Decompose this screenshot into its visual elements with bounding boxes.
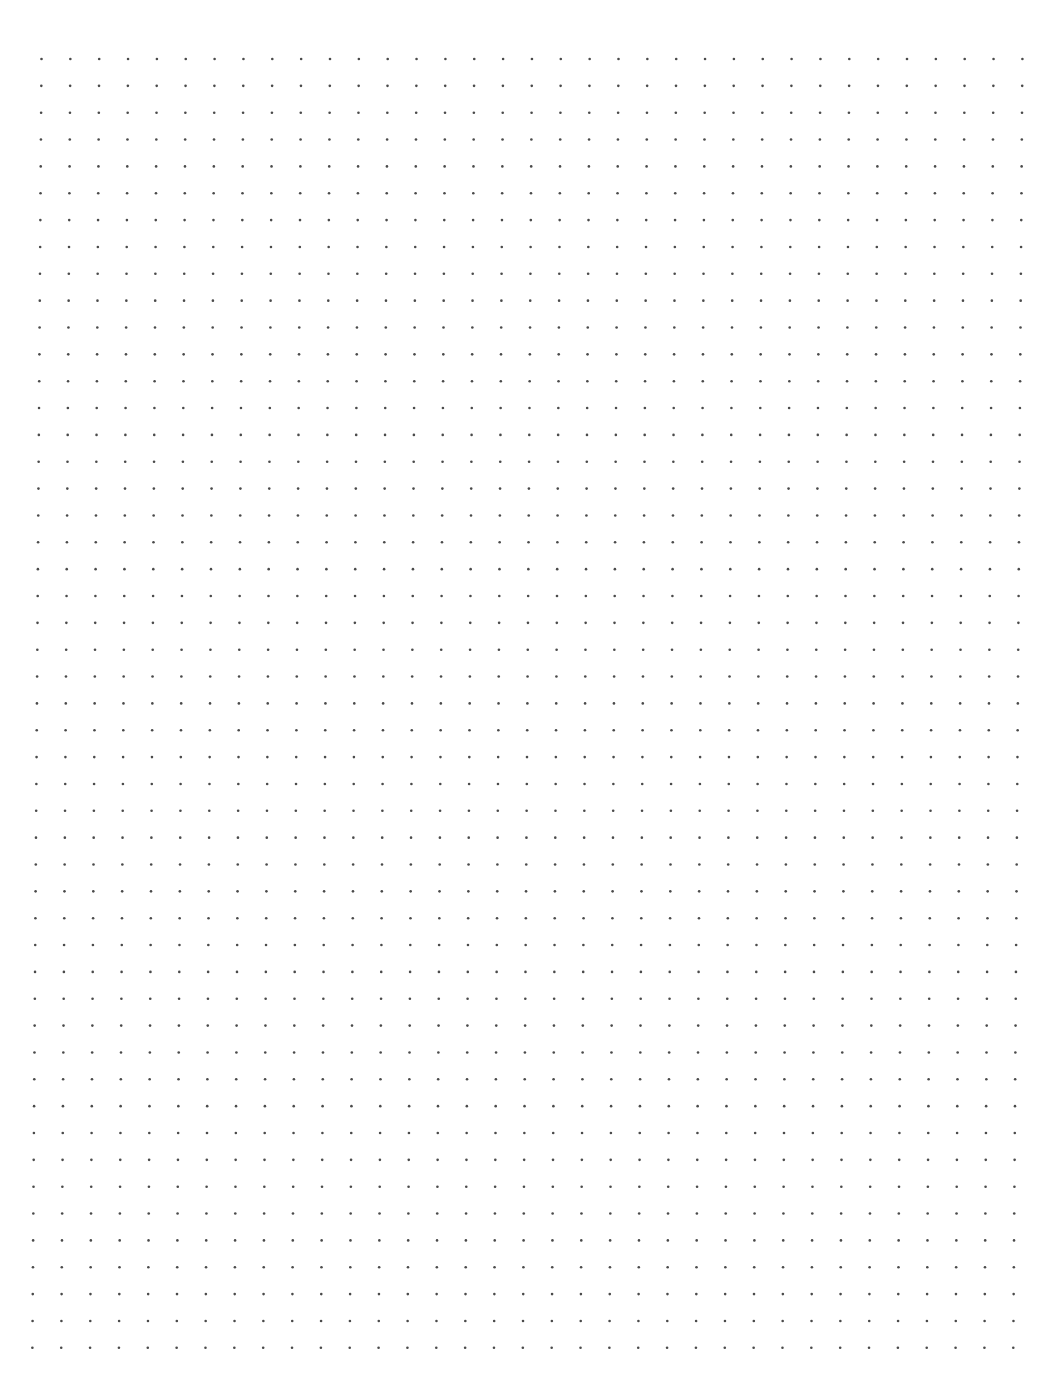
grid-dot bbox=[267, 622, 270, 625]
grid-dot bbox=[181, 487, 184, 490]
grid-dot bbox=[672, 407, 675, 410]
grid-dot bbox=[842, 971, 845, 974]
grid-dot bbox=[297, 460, 300, 463]
grid-dot bbox=[786, 729, 789, 732]
grid-dot bbox=[153, 407, 156, 410]
grid-dot bbox=[295, 675, 298, 678]
grid-dot bbox=[238, 675, 241, 678]
grid-dot bbox=[350, 1132, 353, 1135]
grid-dot bbox=[930, 729, 933, 732]
grid-dot bbox=[757, 675, 760, 678]
grid-dot bbox=[819, 138, 822, 141]
grid-dot bbox=[269, 380, 272, 383]
grid-dot bbox=[700, 541, 703, 544]
grid-dot bbox=[667, 1159, 670, 1162]
grid-dot bbox=[357, 165, 360, 168]
grid-dot bbox=[989, 541, 992, 544]
grid-dot bbox=[932, 380, 935, 383]
grid-dot bbox=[409, 944, 412, 947]
grid-dot bbox=[757, 702, 760, 705]
grid-dot bbox=[320, 1239, 323, 1242]
grid-dot bbox=[698, 863, 701, 866]
grid-dot bbox=[265, 863, 268, 866]
grid-dot bbox=[291, 1239, 294, 1242]
grid-dot bbox=[783, 1132, 786, 1135]
grid-dot bbox=[615, 299, 618, 302]
grid-dot bbox=[756, 890, 759, 893]
grid-dot bbox=[122, 729, 125, 732]
grid-dot bbox=[324, 729, 327, 732]
grid-dot bbox=[268, 514, 271, 517]
grid-dot bbox=[962, 326, 965, 329]
grid-dot bbox=[611, 917, 614, 920]
grid-dot bbox=[869, 1105, 872, 1108]
grid-dot bbox=[153, 460, 156, 463]
grid-dot bbox=[1014, 1051, 1017, 1054]
grid-dot bbox=[205, 1212, 208, 1215]
grid-dot bbox=[557, 434, 560, 437]
grid-dot bbox=[182, 407, 185, 410]
grid-dot bbox=[554, 890, 557, 893]
grid-dot bbox=[61, 1212, 64, 1215]
grid-dot bbox=[96, 326, 99, 329]
grid-dot bbox=[697, 1051, 700, 1054]
grid-dot bbox=[818, 246, 821, 249]
grid-dot bbox=[609, 1185, 612, 1188]
grid-dot bbox=[931, 514, 934, 517]
grid-dot bbox=[151, 756, 154, 759]
grid-dot bbox=[237, 756, 240, 759]
grid-dot bbox=[754, 1159, 757, 1162]
grid-dot bbox=[670, 810, 673, 813]
grid-dot bbox=[699, 756, 702, 759]
grid-dot bbox=[207, 944, 210, 947]
grid-dot bbox=[790, 85, 793, 88]
grid-dot bbox=[785, 783, 788, 786]
grid-dot bbox=[326, 460, 329, 463]
grid-dot bbox=[555, 675, 558, 678]
grid-dot bbox=[381, 810, 384, 813]
grid-dot bbox=[470, 487, 473, 490]
grid-dot bbox=[672, 460, 675, 463]
grid-dot bbox=[213, 58, 216, 61]
grid-dot bbox=[205, 1239, 208, 1242]
grid-dot bbox=[818, 273, 821, 276]
grid-dot bbox=[1020, 246, 1023, 249]
grid-dot bbox=[357, 138, 360, 141]
grid-dot bbox=[898, 1105, 901, 1108]
grid-dot bbox=[903, 460, 906, 463]
grid-dot bbox=[958, 890, 961, 893]
grid-dot bbox=[380, 1024, 383, 1027]
grid-dot bbox=[1013, 1159, 1016, 1162]
grid-dot bbox=[872, 675, 875, 678]
grid-dot bbox=[731, 299, 734, 302]
grid-dot bbox=[411, 675, 414, 678]
grid-dot bbox=[265, 971, 268, 974]
grid-dot bbox=[234, 1266, 237, 1269]
grid-dot bbox=[901, 702, 904, 705]
grid-dot bbox=[874, 514, 877, 517]
grid-dot bbox=[992, 111, 995, 114]
grid-dot bbox=[500, 326, 503, 329]
grid-dot bbox=[699, 729, 702, 732]
grid-dot bbox=[263, 1132, 266, 1135]
grid-dot bbox=[811, 1266, 814, 1269]
grid-dot bbox=[754, 1078, 757, 1081]
grid-dot bbox=[668, 1024, 671, 1027]
grid-dot bbox=[870, 1078, 873, 1081]
grid-dot bbox=[729, 568, 732, 571]
grid-dot bbox=[616, 219, 619, 222]
grid-dot bbox=[785, 863, 788, 866]
grid-dot bbox=[177, 1051, 180, 1054]
grid-dot bbox=[468, 783, 471, 786]
grid-dot bbox=[900, 836, 903, 839]
grid-dot bbox=[847, 138, 850, 141]
grid-dot bbox=[727, 810, 730, 813]
dot-grid-page bbox=[0, 0, 1044, 1390]
grid-dot bbox=[471, 353, 474, 356]
grid-dot bbox=[381, 783, 384, 786]
grid-dot bbox=[496, 810, 499, 813]
grid-dot bbox=[211, 380, 214, 383]
grid-dot bbox=[351, 971, 354, 974]
grid-dot bbox=[789, 299, 792, 302]
grid-dot bbox=[324, 702, 327, 705]
